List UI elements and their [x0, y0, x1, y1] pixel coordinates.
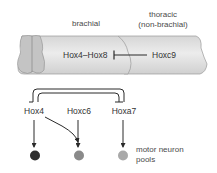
motor-neuron-label: motor neuron [136, 146, 184, 154]
brachial-label: brachial [72, 20, 100, 28]
hoxc9-label: Hoxc9 [152, 51, 176, 60]
pool-dark [30, 151, 40, 161]
non-brachial-label: (non-brachial) [138, 21, 187, 29]
activation-arrows [34, 117, 123, 147]
gene-hoxc6: Hoxc6 [67, 107, 91, 116]
pools-label: pools [136, 156, 155, 164]
thoracic-label: thoracic [149, 11, 177, 19]
gene-hoxa7: Hoxa7 [112, 107, 137, 116]
motor-neuron-pools [30, 151, 128, 161]
gene-hox4: Hox4 [24, 107, 44, 116]
hox4-hoxa7-mutual-repression [29, 89, 124, 102]
pool-mid [74, 151, 84, 161]
pool-light [118, 151, 128, 161]
hox4-hox8-label: Hox4–Hox8 [63, 51, 107, 60]
gray-matter-cross-section [18, 36, 45, 74]
